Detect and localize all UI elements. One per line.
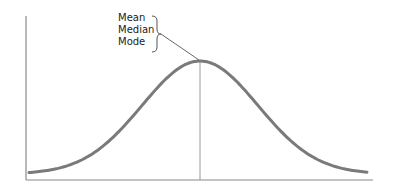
label-mode: Mode xyxy=(118,36,145,48)
bell-curve xyxy=(29,61,367,173)
label-mean: Mean xyxy=(118,12,145,24)
normal-distribution-figure xyxy=(0,0,395,194)
leader-line xyxy=(161,34,199,60)
label-median: Median xyxy=(118,24,154,36)
